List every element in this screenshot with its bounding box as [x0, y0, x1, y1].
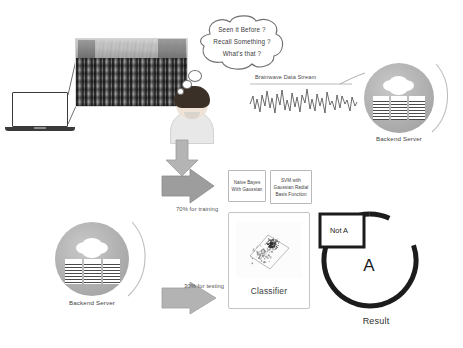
cloud-icon-bottom	[82, 238, 102, 252]
server-rack-top-1	[373, 96, 389, 120]
algorithm-box-svm[interactable]: SVM with Gaussian Radial Basis Function	[270, 170, 312, 204]
train-split-arrow	[160, 168, 220, 208]
photo-crowd-region	[76, 58, 187, 106]
algorithm-box-naive-bayes[interactable]: Naive Bayes With Gaussian	[228, 170, 266, 202]
train-split-label: 70% for training	[176, 206, 218, 212]
algorithm-svm-label: SVM with Gaussian Radial Basis Function	[271, 177, 311, 198]
laptop-screen	[12, 92, 68, 127]
eeg-stream-label: Brainwave Data Stream	[255, 74, 341, 80]
backend-server-top-label: Backend Server	[359, 135, 439, 142]
result-negative-label: Not A	[322, 226, 356, 235]
cloud-icon-top	[389, 76, 408, 89]
diagram-canvas: Seen it Before ? Recall Something ? What…	[0, 0, 463, 348]
server-rack-bottom-1	[65, 259, 82, 284]
thought-bubble-dot-medium	[182, 80, 192, 89]
server-rack-bottom-3	[103, 259, 120, 284]
server-rack-top-3	[409, 96, 425, 120]
backend-server-bottom-label: Backend Server	[50, 299, 134, 306]
server-rack-bottom-2	[84, 259, 101, 284]
server-rack-top-2	[391, 96, 407, 120]
thought-bubble-dot-small	[177, 88, 184, 95]
algorithm-naive-bayes-label: Naive Bayes With Gaussian	[229, 179, 265, 193]
laptop-trackpad-notch	[34, 127, 46, 129]
result-positive-label: A	[356, 256, 382, 276]
classifier-label: Classifier	[228, 286, 310, 296]
classifier-scatter-plot	[236, 222, 302, 278]
test-split-label: 30% for testing	[184, 283, 224, 289]
thought-bubble	[192, 14, 290, 74]
result-label: Result	[336, 316, 416, 326]
